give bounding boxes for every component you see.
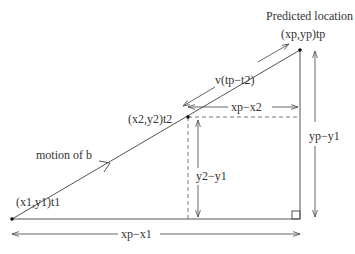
dx-partial-label: xp−x2 [231,100,262,114]
dy-partial-label: y2−y1 [196,169,227,183]
point-predicted [298,48,302,52]
motion-prediction-diagram: Predicted location (xp,yp)tp v(tp−t2) xp… [0,0,355,254]
dashed-projections [188,117,300,219]
right-angle-marker [292,211,300,219]
labels: Predicted location (xp,yp)tp v(tp−t2) xp… [16,9,353,241]
p2-coords-label: (x2,y2)t2 [128,112,172,126]
motion-label: motion of b [36,148,92,162]
velocity-segment-label: v(tp−t2) [215,73,254,87]
triangle [12,50,300,219]
predicted-location-label: Predicted location [266,9,353,23]
dy-total-label: yp−y1 [309,129,340,143]
dx-total-label: xp−x1 [121,227,152,241]
point-p2 [186,115,190,119]
motion-path-line [12,50,300,219]
point-p1 [10,217,14,221]
p1-coords-label: (x1,y1)t1 [16,195,60,209]
predicted-coords-label: (xp,yp)tp [281,27,325,41]
